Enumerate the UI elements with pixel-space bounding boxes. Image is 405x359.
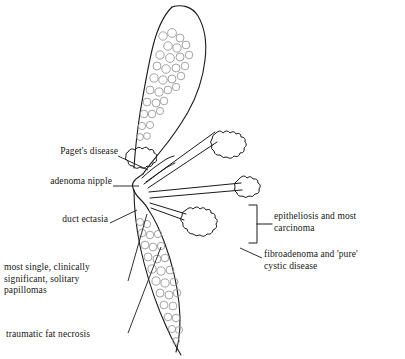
label-epitheliosis-carcinoma: epitheliosis and most carcinoma <box>274 211 400 234</box>
label-fibroadenoma-cystic: fibroadenoma and 'pure' cystic disease <box>264 249 402 272</box>
bracket-epitheliosis <box>249 205 272 243</box>
leader-traumatic-fat-necrosis <box>128 247 161 333</box>
label-adenoma-nipple: adenoma nipple <box>4 176 112 188</box>
lobule-cluster-upper-left <box>125 147 156 168</box>
label-traumatic-fat-necrosis: traumatic fat necrosis <box>6 329 134 341</box>
label-duct-ectasia: duct ectasia <box>24 214 108 226</box>
duct-lower-b <box>151 208 184 220</box>
duct-lower-a <box>150 203 186 214</box>
duct-mid-b <box>150 190 242 198</box>
duct-mid-a <box>149 183 241 192</box>
label-pagets-disease: Paget's disease <box>4 146 118 158</box>
breast-pathology-diagram: Paget's disease adenoma nipple duct ecta… <box>0 0 405 359</box>
leader-duct-ectasia <box>110 210 137 223</box>
label-papillomas: most single, clinically significant, sol… <box>4 262 132 297</box>
breast-outline-group <box>133 6 206 355</box>
leader-pagets-disease <box>118 156 148 170</box>
lobule-cluster-mid-right <box>234 176 260 198</box>
lobule-cluster-upper-right <box>211 131 247 158</box>
duct-system-group <box>142 132 242 220</box>
leader-fibroadenoma <box>240 248 262 258</box>
lobule-stipple-group <box>136 29 192 345</box>
lobule-cluster-lower-right <box>181 207 218 236</box>
